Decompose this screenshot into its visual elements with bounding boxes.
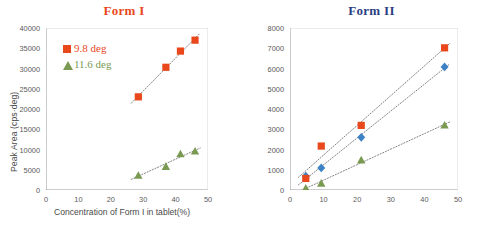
x-tick-label: 50 — [198, 195, 218, 204]
data-point-marker — [162, 162, 170, 170]
y-tick-label: 8000 — [248, 24, 284, 33]
data-point-marker — [318, 142, 325, 149]
data-point-marker — [177, 47, 184, 54]
y-tick-label: 35000 — [4, 44, 40, 53]
data-point-marker — [357, 156, 365, 164]
y-tick-label: 1000 — [248, 166, 284, 175]
y-tick-label: 25000 — [4, 85, 40, 94]
data-point-marker — [440, 121, 448, 129]
data-point-marker — [441, 44, 448, 51]
figure-canvas: Form I Peak Area (cps·deg) Concentration… — [0, 0, 495, 229]
data-point-marker — [176, 150, 184, 158]
data-point-marker — [357, 133, 365, 142]
y-tick-label: 5000 — [4, 166, 40, 175]
square-icon — [63, 45, 71, 53]
x-tick-label: 30 — [133, 195, 153, 204]
y-tick-label: 2000 — [248, 146, 284, 155]
y-tick-label: 30000 — [4, 65, 40, 74]
y-tick-label: 7000 — [248, 44, 284, 53]
x-tick-label: 40 — [414, 195, 434, 204]
plot-svg-form-ii — [290, 28, 458, 190]
legend-item: 9.8 deg — [62, 40, 111, 56]
y-tick-label: 10000 — [4, 146, 40, 155]
legend-triangle-icon — [62, 59, 73, 70]
y-tick-label: 5000 — [248, 85, 284, 94]
x-axis-title-form-i: Concentration of Form I in tablet(%) — [54, 207, 190, 217]
x-tick-label: 10 — [68, 195, 88, 204]
y-tick-label: 4000 — [248, 105, 284, 114]
y-tick-label: 3000 — [248, 125, 284, 134]
chart-title-form-i: Form I — [0, 3, 248, 19]
chart-panel-form-i: Form I Peak Area (cps·deg) Concentration… — [0, 0, 248, 229]
x-tick-label: 20 — [347, 195, 367, 204]
y-tick-label: 15000 — [4, 125, 40, 134]
y-tick-label: 0 — [4, 186, 40, 195]
x-tick-label: 20 — [101, 195, 121, 204]
data-point-marker — [358, 122, 365, 129]
y-tick-label: 40000 — [4, 24, 40, 33]
legend-label: 9.8 deg — [74, 43, 106, 54]
legend-square-icon — [62, 43, 73, 54]
data-point-marker — [135, 93, 142, 100]
data-point-marker — [134, 171, 142, 179]
legend-item: 11.6 deg — [62, 56, 111, 72]
x-tick-label: 0 — [280, 195, 300, 204]
plot-area-form-ii — [290, 28, 458, 190]
x-tick-label: 40 — [166, 195, 186, 204]
x-tick-label: 0 — [36, 195, 56, 204]
data-point-marker — [162, 64, 169, 71]
x-tick-label: 50 — [448, 195, 468, 204]
data-point-marker — [191, 37, 198, 44]
y-tick-label: 20000 — [4, 105, 40, 114]
x-tick-label: 30 — [381, 195, 401, 204]
x-tick-label: 10 — [314, 195, 334, 204]
chart-panel-form-ii: Form II Peak Area (cps·deg) Concentratio… — [248, 0, 495, 229]
legend-label: 11.6 deg — [74, 59, 111, 70]
y-tick-label: 6000 — [248, 65, 284, 74]
chart-title-form-ii: Form II — [248, 3, 495, 19]
y-tick-label: 0 — [248, 186, 284, 195]
legend-form-i: 9.8 deg11.6 deg — [62, 40, 111, 72]
triangle-icon — [63, 61, 73, 70]
data-point-marker — [191, 147, 199, 155]
data-point-marker — [302, 175, 309, 182]
